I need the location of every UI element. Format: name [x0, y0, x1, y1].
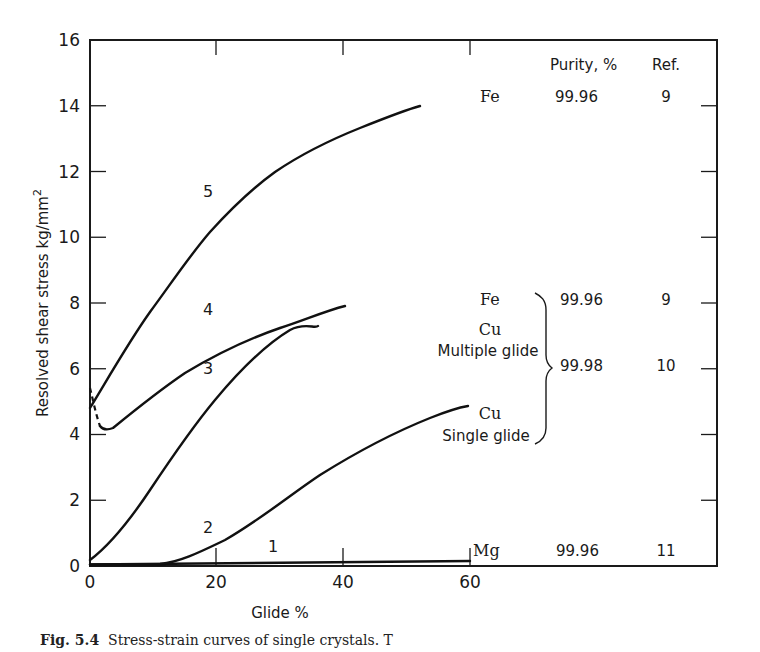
y-tick-10: 10	[58, 227, 80, 247]
x-tick-20: 20	[205, 572, 227, 592]
y-tick-4: 4	[69, 424, 80, 444]
figure-caption: Fig. 5.4 Stress-strain curves of single …	[40, 632, 393, 648]
stress-strain-chart: 0 2 4 6 8 10 12 14 16 0 20 40 60 Glide %…	[0, 0, 760, 630]
legend-cu-ref: 10	[656, 357, 675, 375]
y-tick-14: 14	[58, 96, 80, 116]
legend-mg-ref: 11	[656, 542, 675, 560]
y-ticks-left	[90, 106, 106, 501]
curves	[90, 106, 470, 566]
x-tick-labels: 0 20 40 60	[85, 572, 481, 592]
curve-label-5: 5	[203, 182, 213, 201]
legend-cu-multi-metal: Cu	[479, 320, 502, 339]
legend-mg-metal: Mg	[473, 541, 500, 560]
y-tick-8: 8	[69, 293, 80, 313]
legend-mg-purity: 99.96	[556, 542, 599, 560]
x-tick-60: 60	[459, 572, 481, 592]
y-tick-2: 2	[69, 490, 80, 510]
x-ticks	[216, 40, 470, 566]
legend-fe-mid-purity: 99.96	[560, 291, 603, 309]
x-axis-title: Glide %	[251, 604, 309, 622]
curve-label-4: 4	[203, 300, 213, 319]
legend-fe-top-purity: 99.96	[555, 88, 598, 106]
y-axis-title-group: Resolved shear stress kg/mm2	[31, 189, 52, 417]
legend-brace	[535, 293, 552, 444]
y-axis-title: Resolved shear stress kg/mm2	[31, 189, 52, 417]
curve-2-cu-single	[90, 406, 468, 565]
y-tick-6: 6	[69, 359, 80, 379]
x-tick-40: 40	[332, 572, 354, 592]
legend-cu-single-mode: Single glide	[442, 427, 530, 445]
legend-cu-single-metal: Cu	[479, 404, 502, 423]
curve-label-2: 2	[203, 518, 213, 537]
legend-header-ref: Ref.	[652, 56, 680, 74]
legend-fe-mid-metal: Fe	[480, 290, 500, 309]
x-tick-0: 0	[85, 572, 96, 592]
curve-4-fe	[100, 306, 345, 429]
legend-cu-multi-mode: Multiple glide	[438, 342, 539, 360]
legend-table: Purity, % Ref. Fe 99.96 9 Fe 99.96 9 Cu …	[438, 56, 680, 560]
caption-label: Fig. 5.4	[40, 632, 99, 648]
legend-fe-top-metal: Fe	[480, 87, 500, 106]
legend-fe-top-ref: 9	[661, 88, 671, 106]
legend-fe-mid-ref: 9	[661, 291, 671, 309]
plot-frame	[90, 40, 717, 566]
y-tick-12: 12	[58, 162, 80, 182]
curve-label-1: 1	[268, 537, 278, 556]
y-tick-0: 0	[69, 556, 80, 576]
curve-5-fe	[90, 106, 420, 408]
y-ticks-right	[701, 106, 717, 501]
legend-cu-purity: 99.98	[560, 357, 603, 375]
y-tick-labels: 0 2 4 6 8 10 12 14 16	[58, 30, 80, 576]
curve-label-3: 3	[203, 359, 213, 378]
y-tick-16: 16	[58, 30, 80, 50]
caption-text: Stress-strain curves of single crystals.…	[108, 632, 393, 648]
legend-header-purity: Purity, %	[550, 56, 617, 74]
